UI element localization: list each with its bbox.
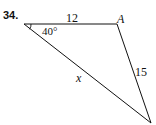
side-label-x: x [76, 72, 81, 84]
triangle [24, 24, 151, 123]
triangle-diagram [0, 0, 156, 125]
vertex-label-a: A [117, 13, 124, 25]
side-label-right: 15 [135, 66, 147, 78]
side-label-top: 12 [66, 12, 78, 24]
angle-label: 40° [42, 26, 57, 37]
angle-arc [29, 24, 31, 29]
